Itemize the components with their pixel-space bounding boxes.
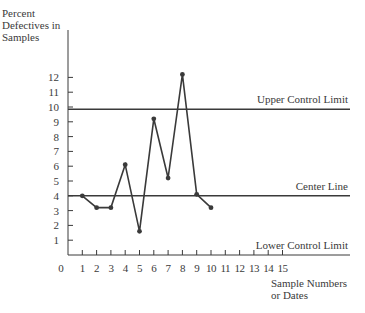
y-tick-label: 8 xyxy=(54,131,60,143)
origin-label: 0 xyxy=(58,262,64,274)
x-tick-label: 12 xyxy=(235,262,245,274)
data-point xyxy=(180,72,185,77)
x-tick-label: 8 xyxy=(180,262,186,274)
y-tick-label: 10 xyxy=(48,101,60,113)
data-point xyxy=(109,205,114,210)
reference-line-label: Center Line xyxy=(296,180,348,192)
y-tick-label: 12 xyxy=(48,71,59,83)
data-point xyxy=(137,229,142,234)
data-point xyxy=(209,205,214,210)
data-point xyxy=(123,162,128,167)
y-tick-label: 2 xyxy=(54,219,60,231)
control-chart: 1234567891011120123456789101112131415 Up… xyxy=(0,0,365,313)
y-tick-label: 6 xyxy=(54,160,60,172)
data-series xyxy=(80,72,214,234)
data-point xyxy=(151,116,156,121)
x-tick-label: 5 xyxy=(137,262,143,274)
y-tick-label: 11 xyxy=(48,86,59,98)
y-tick-label: 3 xyxy=(54,205,60,217)
x-tick-label: 9 xyxy=(194,262,200,274)
data-point xyxy=(80,193,85,198)
reference-line-labels: Upper Control LimitCenter LineLower Cont… xyxy=(256,93,348,251)
y-tick-label: 7 xyxy=(54,145,60,157)
x-tick-label: 13 xyxy=(249,262,260,274)
y-tick-label: 9 xyxy=(54,116,60,128)
y-tick-label: 4 xyxy=(54,190,60,202)
x-tick-label: 11 xyxy=(221,262,231,274)
x-tick-label: 1 xyxy=(80,262,85,274)
series-line xyxy=(82,74,211,231)
axes: 1234567891011120123456789101112131415 xyxy=(48,30,350,274)
reference-line-label: Lower Control Limit xyxy=(256,239,348,251)
x-tick-label: 2 xyxy=(94,262,99,274)
x-tick-label: 15 xyxy=(278,262,289,274)
x-tick-label: 14 xyxy=(263,262,274,274)
x-tick-label: 4 xyxy=(123,262,129,274)
x-tick-label: 10 xyxy=(206,262,217,274)
x-tick-label: 6 xyxy=(151,262,157,274)
data-point xyxy=(166,176,171,181)
y-tick-label: 5 xyxy=(54,175,60,187)
data-point xyxy=(194,192,199,197)
reference-line-label: Upper Control Limit xyxy=(257,93,348,105)
data-point xyxy=(94,205,99,210)
x-tick-label: 3 xyxy=(108,262,114,274)
x-tick-label: 7 xyxy=(166,262,172,274)
y-tick-label: 1 xyxy=(54,234,60,246)
